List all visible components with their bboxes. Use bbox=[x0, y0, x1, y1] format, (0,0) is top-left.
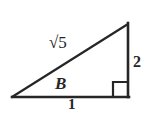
hypotenuse-line bbox=[12, 24, 128, 97]
adjacent-side-label: 1 bbox=[68, 97, 76, 112]
opposite-side-label: 2 bbox=[133, 54, 141, 70]
right-triangle-figure: √5 2 1 B bbox=[0, 0, 148, 114]
hypotenuse-label: √5 bbox=[48, 34, 67, 51]
right-angle-square-icon bbox=[113, 82, 128, 97]
angle-b-label: B bbox=[55, 75, 66, 92]
radical-sign-icon: √5 bbox=[48, 34, 67, 51]
